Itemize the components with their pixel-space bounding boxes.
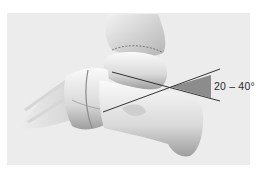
angle-label: 20 – 40° xyxy=(214,80,255,92)
metatarsal-bones xyxy=(20,78,72,128)
tibia-bone xyxy=(105,14,165,56)
